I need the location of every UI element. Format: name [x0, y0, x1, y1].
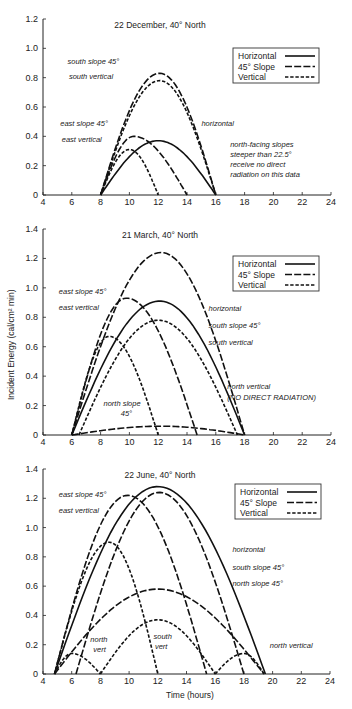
x-tick-label: 14: [182, 437, 192, 447]
x-tick-label: 4: [40, 197, 45, 207]
x-tick-label: 18: [240, 197, 250, 207]
x-tick-label: 24: [325, 676, 335, 686]
chart-panel-3: 468101214161820222400.20.40.60.81.01.21.…: [25, 464, 335, 686]
y-tick-label: 0.2: [25, 161, 38, 171]
annotation: south vertical: [209, 338, 254, 347]
annotation: 45°: [121, 409, 132, 418]
annotation: (NO DIRECT RADIATION): [227, 393, 316, 402]
y-tick-label: 1.2: [25, 14, 38, 24]
legend-label: 45° Slope: [240, 498, 277, 508]
y-tick-label: 0.8: [25, 312, 38, 322]
annotation: vert: [93, 645, 106, 654]
y-tick-label: 0.6: [25, 581, 38, 591]
annotation: north vertical: [227, 382, 270, 391]
y-tick-label: 1.4: [25, 224, 38, 234]
annotation: east slope 45°: [60, 119, 108, 128]
x-tick-label: 6: [69, 676, 74, 686]
y-tick-label: 0: [33, 669, 38, 679]
y-tick-label: 1.0: [25, 523, 38, 533]
solar-radiation-figure: 468101214161820222400.20.40.60.81.01.222…: [0, 0, 352, 709]
x-tick-label: 20: [268, 197, 278, 207]
legend-label: Vertical: [240, 508, 268, 518]
legend-label: 45° Slope: [238, 270, 275, 280]
y-tick-label: 0.6: [25, 102, 38, 112]
annotation: radiation on this data: [230, 170, 300, 179]
legend-label: Horizontal: [238, 51, 276, 61]
y-tick-label: 0: [33, 190, 38, 200]
annotation: east vertical: [59, 506, 99, 515]
x-tick-label: 18: [239, 676, 249, 686]
annotation: north slope: [103, 399, 140, 408]
x-tick-label: 10: [124, 676, 134, 686]
y-tick-label: 0: [33, 430, 38, 440]
legend-label: 45° Slope: [238, 62, 275, 72]
x-tick-label: 12: [153, 437, 163, 447]
x-tick-label: 4: [40, 676, 45, 686]
legend-label: Horizontal: [238, 259, 276, 269]
annotation: east slope 45°: [59, 490, 107, 499]
x-tick-label: 10: [124, 437, 134, 447]
x-tick-label: 16: [210, 676, 220, 686]
series-south-slope-45-: [101, 73, 216, 195]
y-tick-label: 1.2: [25, 493, 38, 503]
chart-title: 21 March, 40° North: [122, 230, 198, 240]
annotation: south slope 45°: [67, 57, 119, 66]
series-east-slope-45-: [55, 495, 207, 674]
x-tick-label: 20: [268, 676, 278, 686]
chart-panel-1: 468101214161820222400.20.40.60.81.01.222…: [25, 14, 336, 207]
chart-title: 22 December, 40° North: [114, 20, 206, 30]
y-tick-label: 1.0: [25, 283, 38, 293]
y-axis-label: Incident Energy (cal/cm² min): [6, 289, 16, 400]
annotation: north vertical: [270, 641, 313, 650]
y-tick-label: 1.0: [25, 43, 38, 53]
annotation: receive no direct: [230, 160, 286, 169]
y-tick-label: 1.4: [25, 464, 38, 474]
x-tick-label: 14: [181, 676, 191, 686]
x-tick-label: 12: [153, 676, 163, 686]
y-tick-label: 0.6: [25, 342, 38, 352]
y-tick-label: 0.8: [25, 73, 38, 83]
x-tick-label: 20: [268, 437, 278, 447]
x-tick-label: 24: [326, 437, 336, 447]
y-tick-label: 0.4: [25, 131, 38, 141]
annotation: east vertical: [62, 135, 102, 144]
annotation: east slope 45°: [59, 287, 107, 296]
x-tick-label: 16: [211, 197, 221, 207]
x-tick-label: 8: [98, 437, 103, 447]
annotation: horizontal: [209, 304, 242, 313]
x-tick-label: 10: [124, 197, 134, 207]
legend-label: Horizontal: [240, 487, 278, 497]
annotation: north-facing slopes: [230, 140, 294, 149]
legend-label: Vertical: [238, 280, 266, 290]
x-tick-label: 8: [98, 676, 103, 686]
x-axis-label: Time (hours): [166, 690, 214, 700]
chart-title: 22 June, 40° North: [125, 470, 196, 480]
annotation: south: [153, 632, 171, 641]
y-tick-label: 0.8: [25, 552, 38, 562]
legend-label: Vertical: [238, 72, 266, 82]
y-tick-label: 0.4: [25, 371, 38, 381]
y-tick-label: 0.4: [25, 610, 38, 620]
annotation: south vertical: [69, 72, 114, 81]
x-tick-label: 18: [240, 437, 250, 447]
y-tick-label: 1.2: [25, 253, 38, 263]
x-tick-label: 6: [69, 437, 74, 447]
annotation: north slope 45°: [232, 579, 283, 588]
x-tick-label: 8: [98, 197, 103, 207]
x-tick-label: 22: [297, 437, 307, 447]
x-tick-label: 24: [326, 197, 336, 207]
x-tick-label: 22: [296, 676, 306, 686]
annotation: south slope 45°: [209, 321, 261, 330]
annotation: steeper than 22.5°: [230, 150, 291, 159]
legend: Horizontal45° SlopeVertical: [235, 484, 321, 519]
x-tick-label: 12: [153, 197, 163, 207]
x-tick-label: 14: [182, 197, 192, 207]
annotation: east vertical: [59, 303, 99, 312]
x-tick-label: 4: [40, 437, 45, 447]
x-tick-label: 16: [211, 437, 221, 447]
legend: Horizontal45° SlopeVertical: [233, 48, 319, 83]
annotation: south slope 45°: [232, 563, 284, 572]
y-tick-label: 0.2: [25, 401, 38, 411]
chart-panel-2: 468101214161820222400.20.40.60.81.01.21.…: [25, 224, 336, 447]
series-horizontal: [101, 141, 216, 195]
